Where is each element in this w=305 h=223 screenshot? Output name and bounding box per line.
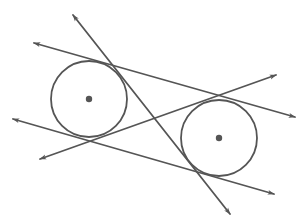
external-tangent-bottom-line — [13, 119, 274, 194]
right-circle-center-dot — [216, 135, 222, 141]
external-tangent-top-line — [34, 43, 295, 117]
two-circles-common-tangents-diagram — [0, 0, 305, 223]
tangent-lines — [13, 15, 295, 214]
internal-tangent-steep-line — [73, 15, 230, 214]
left-circle-center-dot — [86, 96, 92, 102]
internal-tangent-shallow-line — [40, 75, 276, 159]
